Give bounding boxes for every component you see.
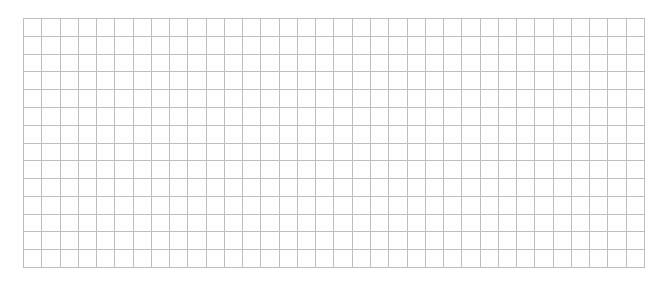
grid-cell [187,36,205,54]
grid-cell [571,196,589,214]
grid-cell [352,143,370,161]
grid-cell [169,143,187,161]
grid-cell [370,18,388,36]
grid-cell [516,18,534,36]
grid-cell [41,196,59,214]
grid-cell [41,231,59,249]
grid-cell [607,54,625,72]
grid-cell [206,54,224,72]
grid-cell [480,214,498,232]
grid-cell [260,196,278,214]
grid-cell [78,178,96,196]
grid-cell [242,231,260,249]
grid-cell [443,231,461,249]
grid-cell [169,160,187,178]
grid-cell [370,71,388,89]
grid-cell [114,160,132,178]
grid-cell [96,18,114,36]
grid-cell [534,214,552,232]
grid-cell [407,107,425,125]
grid-cell [78,89,96,107]
grid-cell [571,214,589,232]
grid-cell [425,107,443,125]
grid-cell [151,214,169,232]
grid-cell [352,107,370,125]
grid-cell [169,89,187,107]
grid-cell [534,89,552,107]
grid-cell [516,249,534,267]
grid-cell [534,160,552,178]
grid-cell [516,160,534,178]
grid-cell [589,143,607,161]
grid-cell [352,18,370,36]
grid-cell [151,249,169,267]
grid-cell [60,18,78,36]
grid-cell [78,160,96,178]
grid-cell [626,125,644,143]
grid-cell [498,89,516,107]
grid-cell [260,71,278,89]
grid-cell [607,36,625,54]
grid-cell [187,231,205,249]
grid-cell [114,178,132,196]
grid-cell [133,36,151,54]
grid-cell [206,143,224,161]
grid-cell [41,71,59,89]
grid-cell [279,54,297,72]
grid-cell [279,231,297,249]
grid-cell [133,160,151,178]
grid-cell [534,249,552,267]
grid-cell [425,71,443,89]
grid-cell [388,125,406,143]
grid-cell [60,54,78,72]
grid-cell [133,196,151,214]
grid-cell [242,125,260,143]
grid-cell [279,196,297,214]
grid-cell [224,54,242,72]
grid-cell [443,178,461,196]
grid-cell [297,71,315,89]
grid-cell [498,54,516,72]
grid-cell [187,143,205,161]
grid-cell [607,178,625,196]
grid-cell [333,107,351,125]
grid-cell [498,249,516,267]
grid-cell [114,36,132,54]
grid-cell [607,71,625,89]
grid-cell [370,231,388,249]
grid-cell [589,54,607,72]
grid-cell [297,160,315,178]
grid-cell [571,89,589,107]
grid-cell [41,160,59,178]
grid-cell [498,178,516,196]
grid-cell [242,71,260,89]
grid-cell [607,196,625,214]
grid-cell [23,36,41,54]
grid-cell [333,196,351,214]
grid-cell [96,196,114,214]
grid-cell [315,143,333,161]
grid-cell [96,54,114,72]
grid-cell [260,143,278,161]
grid-cell [206,196,224,214]
grid-cell [480,125,498,143]
grid-cell [242,18,260,36]
grid-cell [333,125,351,143]
grid-cell [626,89,644,107]
grid-cell [607,231,625,249]
grid-cell [41,107,59,125]
grid-cell [370,36,388,54]
grid-cell [626,178,644,196]
grid-cell [169,214,187,232]
grid-cell [388,160,406,178]
grid-cell [60,36,78,54]
grid-cell [297,196,315,214]
grid-cell [388,18,406,36]
grid-cell [516,36,534,54]
grid-cell [315,18,333,36]
grid-cell [114,107,132,125]
grid-cell [242,107,260,125]
grid-cell [41,249,59,267]
grid-cell [571,249,589,267]
grid-cell [425,160,443,178]
